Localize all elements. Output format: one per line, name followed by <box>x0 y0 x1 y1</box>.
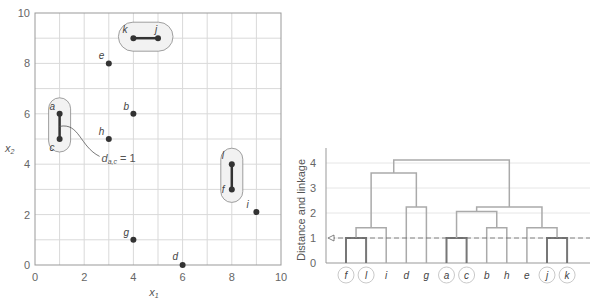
data-point-k <box>130 35 136 41</box>
data-point-d <box>180 262 186 268</box>
dendro-link <box>477 207 542 228</box>
data-point-a <box>57 111 63 117</box>
x-tick-label: 0 <box>32 271 38 283</box>
x-tick-label: 2 <box>81 271 87 283</box>
point-label-h: h <box>99 126 105 137</box>
leaf-label-d: d <box>404 270 410 281</box>
point-label-b: b <box>123 101 129 112</box>
dendro-link <box>346 238 366 263</box>
data-point-i <box>253 209 259 215</box>
dendro-link <box>447 238 467 263</box>
leaf-label-g: g <box>424 270 430 281</box>
y-tick-label: 2 <box>24 209 30 221</box>
dendro-link <box>547 238 567 263</box>
dendro-y-tick: 2 <box>310 207 316 219</box>
y-tick-label: 6 <box>24 108 30 120</box>
data-point-h <box>106 136 112 142</box>
point-label-i: i <box>246 199 249 210</box>
figure: 02468100246810x1x2da,c = 1abcdefghijkl D… <box>0 0 597 302</box>
leaf-label-a: a <box>444 270 450 281</box>
x-tick-label: 8 <box>229 271 235 283</box>
y-tick-label: 10 <box>18 7 30 19</box>
leaf-label-c: c <box>464 270 469 281</box>
x-axis-label: x1 <box>148 286 159 299</box>
data-point-b <box>130 111 136 117</box>
data-point-f <box>229 186 235 192</box>
dendrogram: Distance and linkage01234flidgacbhejk <box>295 148 590 283</box>
dendro-y-tick: 0 <box>310 257 316 269</box>
data-point-g <box>130 237 136 243</box>
data-point-l <box>229 161 235 167</box>
dendro-link <box>487 228 507 263</box>
y-tick-label: 4 <box>24 158 30 170</box>
dendro-link <box>356 228 386 263</box>
dendro-y-tick: 3 <box>310 182 316 194</box>
x-axis-label-sub: 1 <box>155 292 159 299</box>
x-tick-label: 10 <box>275 271 287 283</box>
point-label-e: e <box>99 50 105 61</box>
y-axis-label: x2 <box>4 142 15 155</box>
cut-arrow-icon <box>328 235 334 241</box>
data-point-c <box>57 136 63 142</box>
dendro-y-tick: 4 <box>310 157 316 169</box>
leaf-label-h: h <box>504 270 510 281</box>
x-tick-label: 4 <box>130 271 136 283</box>
distance-annotation: da,c = 1 <box>102 152 136 165</box>
point-label-g: g <box>123 227 129 238</box>
data-point-j <box>155 35 161 41</box>
y-axis-label-sub: 2 <box>10 148 15 155</box>
dendro-link <box>457 212 497 239</box>
leaf-label-i: i <box>385 270 388 281</box>
data-point-e <box>106 60 112 66</box>
dendro-y-tick: 1 <box>310 232 316 244</box>
dendro-link <box>371 173 416 228</box>
x-tick-label: 6 <box>180 271 186 283</box>
y-tick-label: 8 <box>24 57 30 69</box>
point-label-d: d <box>173 251 179 262</box>
dendro-link <box>406 207 426 263</box>
point-label-c: c <box>50 142 55 153</box>
dendro-link <box>527 228 557 263</box>
dendro-link <box>394 160 510 207</box>
y-tick-label: 0 <box>24 259 30 271</box>
scatter-plot: 02468100246810x1x2da,c = 1abcdefghijkl <box>4 7 287 299</box>
point-label-a: a <box>50 101 56 112</box>
distance-annotation-eq: = 1 <box>117 152 136 164</box>
leaf-label-e: e <box>524 270 530 281</box>
dendrogram-y-label: Distance and linkage <box>295 159 307 261</box>
leaf-label-b: b <box>484 270 490 281</box>
